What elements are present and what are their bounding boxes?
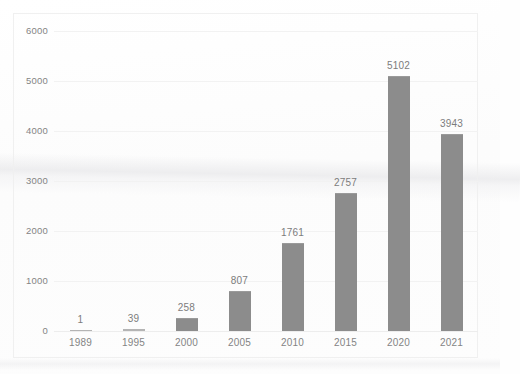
x-axis-tick-label-2010: 2010 bbox=[263, 338, 323, 348]
gridline-6000 bbox=[54, 31, 478, 32]
gridline-3000 bbox=[54, 181, 478, 182]
x-axis-tick-label-2005: 2005 bbox=[210, 338, 270, 348]
bar-value-label-1995: 39 bbox=[104, 314, 164, 324]
x-axis-tick-label-2015: 2015 bbox=[316, 338, 376, 348]
bar-2020 bbox=[388, 76, 410, 331]
bar-value-label-1989: 1 bbox=[51, 315, 111, 325]
bar-2005 bbox=[229, 291, 251, 331]
gridline-4000 bbox=[54, 131, 478, 132]
x-axis-tick-label-2000: 2000 bbox=[157, 338, 217, 348]
bar-value-label-2010: 1761 bbox=[263, 228, 323, 238]
bar-value-label-2020: 5102 bbox=[369, 61, 429, 71]
bar-value-label-2000: 258 bbox=[157, 303, 217, 313]
y-axis-tick-label: 5000 bbox=[2, 76, 48, 86]
x-axis: 19891995200020052010201520202021 bbox=[0, 338, 500, 354]
gridline-5000 bbox=[54, 81, 478, 82]
y-axis-tick-label: 1000 bbox=[2, 276, 48, 286]
plot-area: 1392588071761275751023943 bbox=[54, 31, 478, 331]
y-axis-tick-label: 0 bbox=[2, 326, 48, 336]
bar-value-label-2021: 3943 bbox=[422, 119, 482, 129]
gridline-0 bbox=[54, 331, 478, 332]
bar-2010 bbox=[282, 243, 304, 331]
bar-2000 bbox=[176, 318, 198, 331]
x-axis-tick-label-1995: 1995 bbox=[104, 338, 164, 348]
bar-value-label-2015: 2757 bbox=[316, 178, 376, 188]
bar-2015 bbox=[335, 193, 357, 331]
bar-2021 bbox=[441, 134, 463, 331]
bar-1989 bbox=[70, 330, 92, 332]
y-axis-tick-label: 2000 bbox=[2, 226, 48, 236]
x-axis-tick-label-2021: 2021 bbox=[422, 338, 482, 348]
y-axis-tick-label: 4000 bbox=[2, 126, 48, 136]
y-axis: 6000500040003000200010000 bbox=[0, 31, 48, 331]
bar-value-label-2005: 807 bbox=[210, 276, 270, 286]
y-axis-tick-label: 6000 bbox=[2, 26, 48, 36]
y-axis-tick-label: 3000 bbox=[2, 176, 48, 186]
bar-1995 bbox=[123, 329, 145, 331]
x-axis-tick-label-2020: 2020 bbox=[369, 338, 429, 348]
x-axis-tick-label-1989: 1989 bbox=[51, 338, 111, 348]
